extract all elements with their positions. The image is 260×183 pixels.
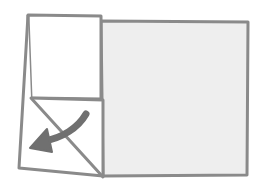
paper-back-region	[101, 21, 248, 176]
origami-diagram	[0, 0, 260, 183]
flap-top-region	[28, 15, 101, 99]
diagram-svg	[0, 0, 260, 183]
